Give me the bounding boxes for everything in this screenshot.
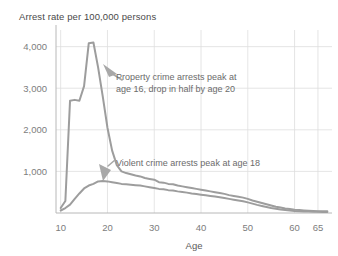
x-axis-title: Age [186,240,203,251]
violent-annotation-arrow [99,160,115,181]
series-line-violent-crime [61,181,328,212]
x-tick-label: 50 [243,222,254,233]
x-tick-label: 30 [149,222,160,233]
property-annotation-line-2: age 16, drop in half by age 20 [116,84,235,94]
x-tick-labels: 10203040506065 [55,222,323,233]
violent-annotation-line-1: Violent crime arrests peak at age 18 [116,158,260,168]
x-tick-label: 40 [196,222,207,233]
data-series-group [61,42,328,211]
y-tick-label: 2,000 [23,124,47,135]
property-annotation-line-1: Property crime arrests peak at [116,72,237,82]
x-gridlines [61,30,318,213]
y-tick-label: 3,000 [23,83,47,94]
x-tick-label: 10 [55,222,66,233]
series-line-property-crime [61,42,328,211]
y-tick-labels: 1,0002,0003,0004,000 [23,41,47,177]
y-tick-label: 4,000 [23,41,47,52]
x-tick-label: 20 [102,222,113,233]
x-tick-label: 60 [289,222,300,233]
chart-container: Arrest rate per 100,000 persons 1,0002,0… [0,0,338,256]
chart-plot-area: 1,0002,0003,0004,000 10203040506065 Age … [0,0,338,256]
x-tick-label: 65 [313,222,324,233]
y-tick-label: 1,000 [23,166,47,177]
